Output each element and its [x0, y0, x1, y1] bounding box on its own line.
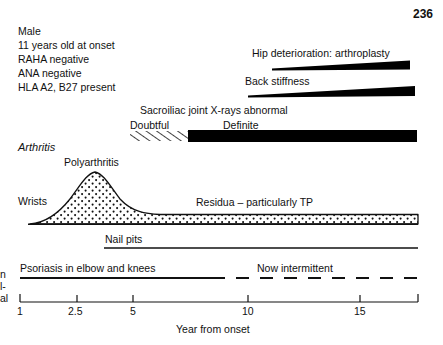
bar-sacroiliac-definite — [188, 130, 417, 142]
figure-root: 236 Male 11 years old at onset RAHA nega… — [0, 0, 443, 345]
bar-sacroiliac-doubtful — [130, 131, 188, 141]
axis-tick-label-5: 5 — [130, 306, 136, 317]
axis-title: Year from onset — [176, 324, 250, 335]
axis-tick-label-15: 15 — [354, 306, 366, 317]
timeline-graphics — [0, 0, 443, 345]
axis-tick-label-10: 10 — [242, 306, 254, 317]
bar-back-stiffness — [248, 86, 415, 98]
axis-tick-label-2.5: 2.5 — [68, 306, 83, 317]
axis-tick-label-1: 1 — [17, 306, 23, 317]
bar-hip-deterioration — [272, 61, 410, 71]
area-arthritis-curve — [30, 172, 418, 224]
